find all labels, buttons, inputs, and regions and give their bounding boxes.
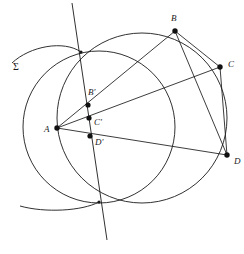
label-point-b: B — [171, 14, 177, 23]
point-B — [172, 28, 177, 33]
segment-ray-A-to-B — [57, 31, 175, 128]
segment-chord-B-to-C — [175, 31, 220, 67]
segment-ray-A-to-D — [57, 128, 227, 155]
sigma-arc-lower-icon — [20, 202, 99, 210]
sigma-arc-upper-icon — [12, 46, 81, 63]
label-point-d-prime: D' — [95, 138, 103, 147]
point-intersection-top — [79, 50, 82, 53]
segments-group — [57, 31, 227, 155]
label-point-b-prime: B' — [88, 88, 95, 97]
label-sigma: Σ — [13, 62, 19, 72]
label-point-a: A — [44, 125, 50, 134]
point-D — [224, 152, 229, 157]
circles-group — [23, 33, 227, 203]
segment-chord-B-to-D — [175, 31, 227, 155]
point-C — [217, 64, 222, 69]
geometry-figure-canvas: Σ A B C D B' C' D' — [0, 0, 244, 254]
point-D-prime — [87, 133, 92, 138]
point-B-prime — [85, 102, 90, 107]
label-point-c: C — [228, 60, 234, 69]
point-C-prime — [86, 115, 91, 120]
segment-ray-A-to-C — [57, 67, 220, 128]
geometry-diagram — [0, 0, 244, 254]
label-point-d: D — [234, 157, 241, 166]
point-intersection-bottom — [97, 200, 100, 203]
point-A — [54, 125, 59, 130]
label-point-c-prime: C' — [94, 118, 102, 127]
